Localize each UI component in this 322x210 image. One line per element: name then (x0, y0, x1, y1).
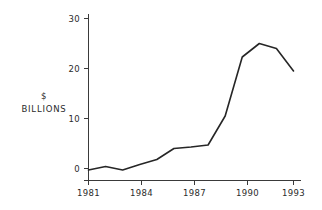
y-tick-label-20: 20 (68, 64, 80, 74)
x-tick-label-1984: 1984 (130, 188, 153, 198)
y-tick-label-0: 0 (74, 164, 80, 174)
plot-area: 30 20 10 0 1981 1984 1987 1990 1993 $ BI… (0, 0, 322, 210)
y-tick-label-30: 30 (68, 14, 80, 24)
line-chart-figure: 30 20 10 0 1981 1984 1987 1990 1993 $ BI… (0, 0, 322, 210)
data-series-line (89, 44, 294, 171)
chart-screen: 30 20 10 0 1981 1984 1987 1990 1993 $ BI… (0, 0, 322, 210)
y-axis-title-line2: BILLIONS (21, 104, 66, 114)
y-tick-label-10: 10 (68, 114, 80, 124)
y-axis-title-line1: $ (41, 91, 47, 101)
x-tick-label-1990: 1990 (236, 188, 259, 198)
x-tick-label-1993: 1993 (282, 188, 305, 198)
x-tick-label-1981: 1981 (77, 188, 100, 198)
x-tick-label-1987: 1987 (183, 188, 206, 198)
